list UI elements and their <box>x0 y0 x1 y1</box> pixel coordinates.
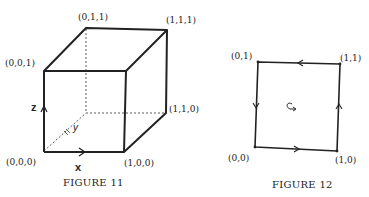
orientation-rotation-icon <box>287 103 296 111</box>
vertex-dot-01 <box>257 61 260 64</box>
vertex-label-001: (0,0,1) <box>5 58 35 68</box>
vertex-label-01: (0,1) <box>231 51 252 61</box>
boundary-arrows <box>253 60 342 152</box>
vertex-label-000: (0,0,0) <box>6 157 36 167</box>
y-arrow-icon <box>64 129 70 135</box>
vertex-label-111: (1,1,1) <box>166 15 196 25</box>
vertex-label-11: (1,1) <box>340 53 361 63</box>
top-face <box>44 28 167 71</box>
vertex-label-011: (0,1,1) <box>78 12 108 22</box>
figure-12: (0,1) (1,1) (0,0) (1,0) FIGURE 12 <box>228 51 361 190</box>
vertex-dot-00 <box>254 146 257 149</box>
vertex-label-100: (1,0,0) <box>124 158 154 168</box>
cube-hidden-edges <box>44 29 166 151</box>
figure-11: z y x (0,0,0) (1,0,0) (1,1,0) (0,0,1) (0… <box>5 12 199 188</box>
axis-label-z: z <box>31 101 37 113</box>
square-boundary <box>255 62 340 151</box>
figure-11-caption: FIGURE 11 <box>63 177 124 188</box>
vertex-label-110: (1,1,0) <box>169 104 199 114</box>
figure-12-caption: FIGURE 12 <box>272 179 333 190</box>
figures-canvas: z y x (0,0,0) (1,0,0) (1,1,0) (0,0,1) (0… <box>0 0 369 197</box>
vertex-dot-10 <box>336 150 339 153</box>
right-face <box>124 30 167 152</box>
axis-label-y: y <box>72 122 79 133</box>
cube-visible-edges <box>44 28 167 152</box>
vertex-dot-11 <box>339 63 342 66</box>
axis-label-x: x <box>75 161 82 173</box>
vertex-label-00: (0,0) <box>228 153 249 163</box>
square-vertices <box>254 61 342 153</box>
vertex-label-10: (1,0) <box>335 155 356 165</box>
